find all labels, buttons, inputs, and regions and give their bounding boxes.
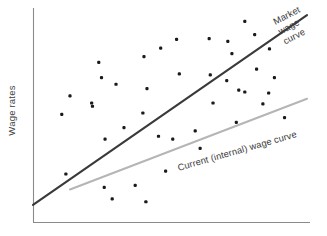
data-point bbox=[90, 101, 93, 104]
data-point bbox=[209, 73, 212, 76]
data-point bbox=[237, 89, 240, 92]
data-point bbox=[283, 116, 286, 119]
data-point bbox=[235, 121, 238, 124]
data-point bbox=[226, 40, 229, 43]
data-point bbox=[208, 37, 211, 40]
data-point bbox=[141, 111, 144, 114]
data-point bbox=[175, 38, 178, 41]
scatter-points-group bbox=[60, 20, 286, 204]
data-point bbox=[253, 33, 256, 36]
data-point bbox=[157, 135, 160, 138]
data-point bbox=[159, 47, 162, 50]
data-point bbox=[64, 172, 67, 175]
data-point bbox=[144, 200, 147, 203]
data-point bbox=[103, 138, 106, 141]
market-wage-curve-line bbox=[33, 15, 307, 205]
data-point bbox=[178, 72, 181, 75]
data-point bbox=[225, 79, 228, 82]
data-point bbox=[273, 76, 276, 79]
trend-lines-group bbox=[33, 15, 307, 205]
data-point bbox=[267, 91, 270, 94]
data-point bbox=[194, 129, 197, 132]
data-point bbox=[268, 47, 271, 50]
wage-curve-chart: Wage rates Market wage curve Current (in… bbox=[0, 0, 327, 236]
data-point bbox=[122, 126, 125, 129]
data-point bbox=[171, 138, 174, 141]
data-point bbox=[211, 101, 214, 104]
data-point bbox=[91, 105, 94, 108]
data-point bbox=[114, 83, 117, 86]
data-point bbox=[255, 68, 258, 71]
data-point bbox=[243, 20, 246, 23]
data-point bbox=[142, 55, 145, 58]
y-axis-title: Wage rates bbox=[6, 81, 17, 141]
data-point bbox=[134, 184, 137, 187]
data-point bbox=[68, 94, 71, 97]
axes-group bbox=[33, 8, 310, 223]
data-point bbox=[261, 102, 264, 105]
data-point bbox=[100, 76, 103, 79]
chart-plot-area bbox=[0, 0, 327, 236]
data-point bbox=[145, 87, 148, 90]
data-point bbox=[243, 90, 246, 93]
data-point bbox=[111, 197, 114, 200]
data-point bbox=[103, 186, 106, 189]
data-point bbox=[97, 61, 100, 64]
data-point bbox=[164, 170, 167, 173]
data-point bbox=[60, 113, 63, 116]
data-point bbox=[230, 52, 233, 55]
data-point bbox=[199, 147, 202, 150]
